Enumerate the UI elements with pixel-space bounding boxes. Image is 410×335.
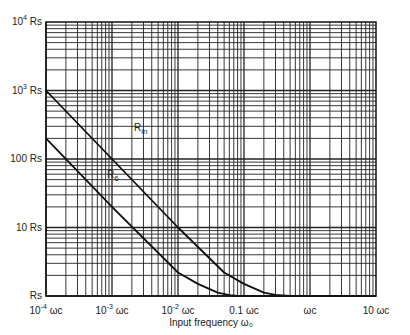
x-tick-label: 10-3 ωc xyxy=(96,303,129,316)
x-tick-label: 10-2 ωc xyxy=(162,303,195,316)
y-tick-label: 104 Rs xyxy=(12,14,42,27)
x-tick-label: 10-4 ωc xyxy=(30,303,63,316)
x-tick-label: 0.1 ωc xyxy=(229,305,259,316)
x-tick-label: ωc xyxy=(304,305,317,316)
log-log-chart: RinR6104 Rs103 Rs100 Rs10 RsRs10-4 ωc10-… xyxy=(0,0,410,335)
series-label-rin: Rin xyxy=(134,122,147,136)
y-tick-label: 103 Rs xyxy=(12,83,42,96)
grid xyxy=(46,22,376,296)
y-tick-label: 100 Rs xyxy=(10,153,42,164)
y-tick-label: Rs xyxy=(30,290,42,301)
y-tick-label: 10 Rs xyxy=(16,222,42,233)
x-axis-label: Input frequency ω₀ xyxy=(169,317,253,328)
series-rin-line xyxy=(46,91,376,297)
x-tick-label: 10 ωc xyxy=(363,305,390,316)
